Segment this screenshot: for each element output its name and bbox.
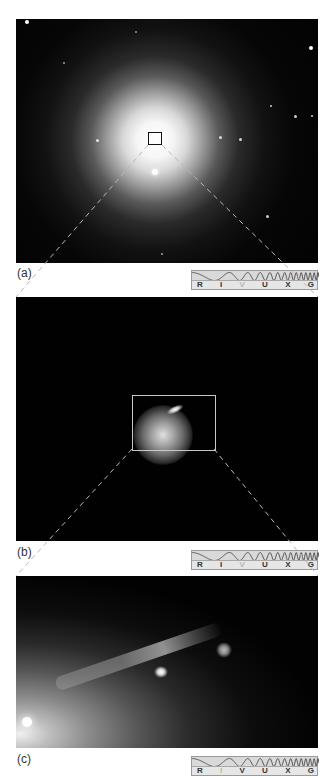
star — [63, 62, 65, 64]
star — [239, 138, 242, 141]
band-v: V — [240, 767, 245, 775]
band-u: U — [262, 767, 268, 775]
panel-b-image — [16, 297, 318, 541]
star — [135, 31, 137, 33]
jet-knot — [154, 666, 168, 678]
band-i: I — [220, 561, 222, 569]
band-i: I — [220, 281, 222, 289]
band-labels: R I V U X G — [192, 280, 317, 289]
jet — [54, 621, 224, 691]
star — [294, 115, 297, 118]
spectrum-bar-a: R I V U X G — [191, 270, 318, 290]
band-r: R — [197, 767, 203, 775]
band-x: X — [285, 561, 290, 569]
core-bright — [22, 717, 32, 727]
band-labels: R I V U X G — [192, 766, 317, 775]
band-r: R — [197, 561, 203, 569]
band-g: G — [308, 561, 314, 569]
spectrum-bar-b: R I V U X G — [191, 550, 318, 570]
panel-c-label: (c) — [17, 752, 31, 766]
band-v: V — [240, 561, 245, 569]
spectrum-bar-c: R I V U X G — [191, 756, 318, 776]
star — [219, 136, 222, 139]
zoom-box-a — [148, 132, 162, 145]
band-r: R — [197, 281, 203, 289]
star — [266, 215, 269, 218]
band-u: U — [262, 281, 268, 289]
panel-a-label: (a) — [17, 266, 32, 280]
zoom-box-b — [132, 395, 216, 451]
panel-c-image — [16, 576, 318, 748]
band-v: V — [240, 281, 245, 289]
star — [152, 169, 158, 175]
star — [309, 46, 313, 50]
star — [161, 253, 163, 255]
band-x: X — [285, 767, 290, 775]
band-x: X — [285, 281, 290, 289]
star — [96, 139, 99, 142]
jet-knot — [216, 642, 232, 658]
band-g: G — [308, 281, 314, 289]
star — [270, 105, 272, 107]
band-g: G — [308, 767, 314, 775]
band-labels: R I V U X G — [192, 560, 317, 569]
panel-b-label: (b) — [17, 545, 32, 559]
star — [311, 115, 313, 117]
band-i: I — [220, 767, 222, 775]
band-u: U — [262, 561, 268, 569]
star — [25, 20, 29, 24]
panel-a-image — [16, 19, 318, 263]
